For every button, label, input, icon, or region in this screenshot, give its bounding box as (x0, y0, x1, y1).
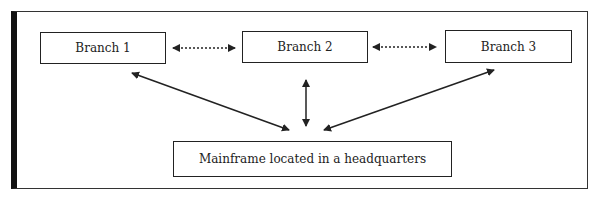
arrow-mainframe-branch1 (132, 73, 289, 130)
arrow-mainframe-branch3 (324, 70, 494, 130)
connectors (0, 0, 598, 198)
